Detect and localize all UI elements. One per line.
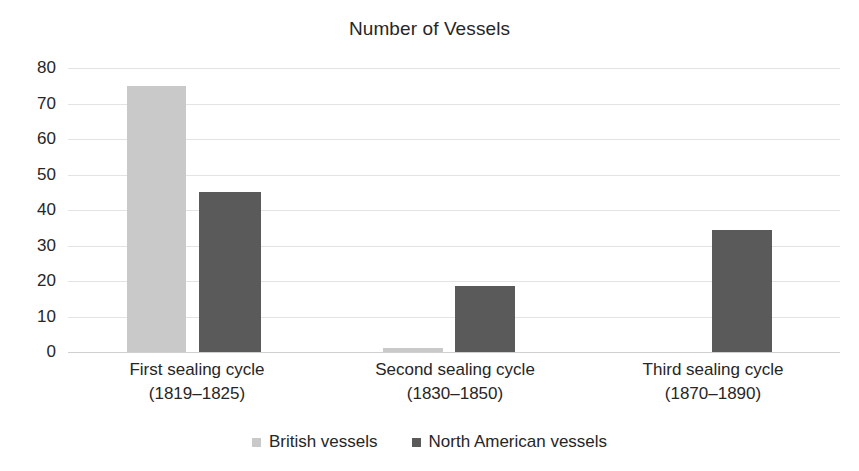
bar-british-first-cycle[interactable] xyxy=(127,86,186,352)
x-axis-label-line2: (1819–1825) xyxy=(68,382,326,406)
x-axis-label-second-cycle: Second sealing cycle (1830–1850) xyxy=(326,358,584,406)
legend-label: British vessels xyxy=(269,432,378,452)
bar-british-second-cycle[interactable] xyxy=(383,348,443,352)
gridline xyxy=(68,68,840,69)
bar-chart: Number of Vessels 80 70 60 50 40 30 20 1… xyxy=(0,0,859,471)
legend-label: North American vessels xyxy=(429,432,608,452)
y-axis-tick: 60 xyxy=(10,129,56,149)
x-axis-label-line2: (1830–1850) xyxy=(326,382,584,406)
plot-area xyxy=(68,68,840,352)
x-axis-category-labels: First sealing cycle (1819–1825) Second s… xyxy=(68,358,840,414)
x-axis-label-third-cycle: Third sealing cycle (1870–1890) xyxy=(584,358,842,406)
legend-item-british-vessels[interactable]: British vessels xyxy=(252,432,378,452)
y-axis-tick: 50 xyxy=(10,165,56,185)
legend-item-north-american-vessels[interactable]: North American vessels xyxy=(412,432,608,452)
legend-swatch-icon xyxy=(252,438,261,447)
x-axis-label-line2: (1870–1890) xyxy=(584,382,842,406)
x-axis-label-line1: First sealing cycle xyxy=(129,360,264,379)
y-axis: 80 70 60 50 40 30 20 10 0 xyxy=(0,68,56,352)
bar-north-american-third-cycle[interactable] xyxy=(712,230,772,352)
x-axis-baseline xyxy=(68,352,840,353)
legend-swatch-icon xyxy=(412,438,421,447)
y-axis-tick: 20 xyxy=(10,271,56,291)
bar-north-american-first-cycle[interactable] xyxy=(199,192,261,352)
y-axis-tick: 10 xyxy=(10,307,56,327)
x-axis-label-line1: Third sealing cycle xyxy=(643,360,784,379)
y-axis-tick: 80 xyxy=(10,58,56,78)
chart-legend: British vessels North American vessels xyxy=(0,432,859,452)
y-axis-tick: 40 xyxy=(10,200,56,220)
y-axis-tick: 70 xyxy=(10,94,56,114)
chart-title: Number of Vessels xyxy=(0,18,859,40)
bar-north-american-second-cycle[interactable] xyxy=(455,286,515,352)
x-axis-label-line1: Second sealing cycle xyxy=(375,360,535,379)
x-axis-label-first-cycle: First sealing cycle (1819–1825) xyxy=(68,358,326,406)
y-axis-tick: 30 xyxy=(10,236,56,256)
y-axis-tick: 0 xyxy=(10,342,56,362)
